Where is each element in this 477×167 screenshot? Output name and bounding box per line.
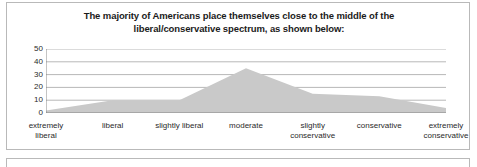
x-label-2: slightly liberal	[146, 121, 212, 131]
y-axis-tick-labels: 50403020100	[19, 46, 43, 120]
x-label-1: liberal	[80, 121, 146, 131]
x-label-6-line-1: extremely	[429, 121, 464, 130]
x-label-4-line-2: conservative	[280, 131, 346, 141]
x-label-4-line-1: slightly	[300, 121, 324, 130]
y-tick-30: 30	[19, 71, 43, 79]
x-label-0-line-2: liberal	[13, 131, 79, 141]
area-chart-svg	[46, 49, 446, 113]
x-label-5-line-1: conservative	[357, 121, 402, 130]
x-label-2-line-1: slightly liberal	[155, 121, 203, 130]
chart-panel: The majority of Americans place themselv…	[6, 2, 470, 150]
y-tick-10: 10	[19, 96, 43, 104]
x-label-3-line-1: moderate	[229, 121, 263, 130]
x-label-0: extremelyliberal	[13, 121, 79, 141]
x-label-1-line-1: liberal	[102, 121, 123, 130]
y-tick-40: 40	[19, 58, 43, 66]
y-tick-0: 0	[19, 109, 43, 117]
y-tick-20: 20	[19, 83, 43, 91]
x-label-4: slightlyconservative	[280, 121, 346, 141]
x-axis-tick-labels: extremelyliberalliberalslightly liberalm…	[7, 121, 471, 147]
plot-area	[46, 49, 446, 113]
next-panel	[6, 158, 470, 167]
x-label-0-line-1: extremely	[29, 121, 64, 130]
x-label-6-line-2: conservative	[413, 131, 477, 141]
y-tick-50: 50	[19, 45, 43, 53]
x-label-5: conservative	[346, 121, 412, 131]
x-label-6: extremelyconservative	[413, 121, 477, 141]
spectrum-area-chart: 50403020100 extremelyliberalliberalsligh…	[7, 3, 471, 151]
x-label-3: moderate	[213, 121, 279, 131]
screenshot-root: The majority of Americans place themselv…	[0, 0, 477, 167]
